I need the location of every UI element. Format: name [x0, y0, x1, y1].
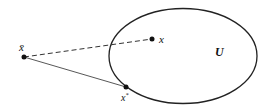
dashed-segment-xbar-to-x — [24, 39, 152, 57]
point-xstar — [124, 85, 129, 90]
label-u: U — [215, 45, 225, 59]
label-xbar: x̄ — [18, 41, 24, 53]
solid-segment-xbar-to-xstar — [24, 57, 126, 87]
label-xstar-sup: * — [125, 92, 128, 98]
label-x: x — [158, 33, 164, 45]
label-xstar: x* — [120, 92, 128, 103]
set-u-ellipse — [109, 9, 257, 104]
point-xbar — [22, 55, 27, 60]
diagram-canvas: x̄ x U x* — [0, 0, 273, 112]
point-x — [150, 37, 155, 42]
